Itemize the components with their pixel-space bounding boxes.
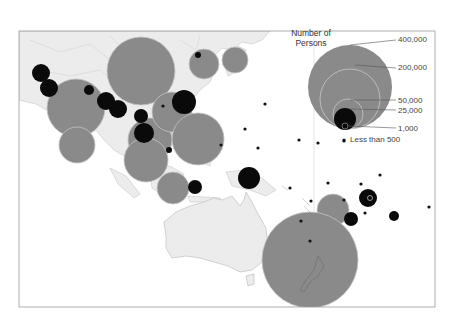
- black-bubble: [195, 52, 201, 58]
- small-dot: [359, 182, 362, 185]
- gray-bubble: [189, 49, 219, 79]
- gray-bubble: [157, 172, 189, 204]
- legend-label-50000: 50,000: [398, 97, 422, 105]
- black-bubble: [134, 109, 148, 123]
- small-dot: [243, 127, 246, 130]
- black-bubble: [40, 79, 58, 97]
- black-bubble: [134, 123, 154, 143]
- black-bubble: [188, 180, 202, 194]
- small-dot: [427, 205, 430, 208]
- small-dot: [309, 199, 312, 202]
- gray-bubble: [262, 212, 358, 308]
- black-bubble: [389, 211, 399, 221]
- small-dot: [363, 211, 366, 214]
- legend-label-200000: 200,000: [398, 64, 427, 72]
- black-bubble: [84, 85, 94, 95]
- small-dot: [326, 181, 329, 184]
- small-dot: [219, 143, 222, 146]
- black-bubble: [166, 147, 172, 153]
- map: [0, 0, 452, 321]
- black-bubble: [238, 167, 260, 189]
- small-dot: [297, 138, 300, 141]
- small-dot: [256, 146, 259, 149]
- legend-label-25000: 25,000: [398, 107, 422, 115]
- map-area: [19, 31, 435, 308]
- small-dot: [342, 198, 345, 201]
- gray-bubble: [59, 127, 95, 163]
- small-dot: [316, 141, 319, 144]
- small-dot: [161, 104, 164, 107]
- black-bubble: [344, 212, 358, 226]
- gray-bubble: [124, 138, 168, 182]
- small-dot: [308, 239, 311, 242]
- gray-bubble: [172, 113, 224, 165]
- legend-title: Number of Persons: [276, 29, 346, 49]
- small-dot: [288, 186, 291, 189]
- legend-label-1000: 1,000: [398, 125, 418, 133]
- black-bubble: [172, 90, 196, 114]
- black-bubble: [109, 100, 127, 118]
- black-bubble: [359, 189, 377, 207]
- legend-label-less-than-500: Less than 500: [350, 136, 400, 144]
- gray-bubble: [222, 47, 248, 73]
- small-dot: [378, 173, 381, 176]
- legend-label-400000: 400,000: [398, 36, 427, 44]
- small-dot: [299, 219, 302, 222]
- legend-title-line2: Persons: [276, 39, 346, 49]
- small-dot: [263, 102, 266, 105]
